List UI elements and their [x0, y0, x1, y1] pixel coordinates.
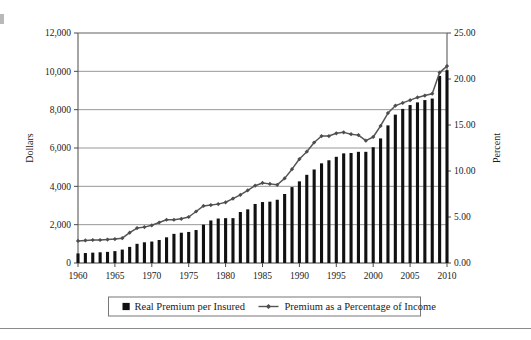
bar — [150, 242, 153, 263]
tick-label-left: 8,000 — [50, 105, 72, 115]
bar — [320, 163, 323, 263]
bar — [135, 244, 138, 263]
tick-label-left: 10,000 — [45, 67, 71, 77]
tick-label-x: 1970 — [142, 271, 161, 281]
bar — [261, 202, 264, 263]
bar — [202, 225, 205, 263]
bar — [445, 70, 448, 263]
bar — [239, 212, 242, 263]
bar — [342, 153, 345, 263]
bar — [364, 152, 367, 263]
bar — [91, 253, 94, 263]
tick-label-left: 12,000 — [45, 28, 71, 38]
bar — [372, 147, 375, 263]
bar — [113, 251, 116, 263]
bar — [187, 232, 190, 263]
bar — [357, 152, 360, 263]
bar — [283, 194, 286, 263]
bar — [394, 115, 397, 263]
tick-label-right: 25.00 — [454, 28, 476, 38]
tick-label-left: 4,000 — [50, 182, 72, 192]
tick-label-x: 1985 — [253, 271, 272, 281]
legend-marker-square — [123, 303, 130, 310]
bar — [76, 253, 79, 263]
tick-label-left: 0 — [66, 258, 71, 268]
bar — [172, 234, 175, 263]
bar — [335, 157, 338, 263]
bar — [305, 175, 308, 263]
bar — [254, 204, 257, 263]
bar — [121, 250, 124, 263]
bar — [106, 252, 109, 263]
bar — [327, 160, 330, 263]
axis-title-left: Dollars — [24, 133, 35, 163]
tick-label-x: 1995 — [327, 271, 346, 281]
tick-label-x: 2005 — [401, 271, 420, 281]
bar — [165, 237, 168, 263]
tick-label-right: 15.00 — [454, 120, 476, 130]
axis-title-right: Percent — [491, 133, 502, 163]
legend-label-bars: Real Premium per Insured — [135, 301, 246, 312]
bar — [379, 138, 382, 263]
bar — [143, 242, 146, 263]
tick-label-left: 2,000 — [50, 220, 72, 230]
bar — [84, 253, 87, 263]
page-edge-mark — [0, 14, 4, 24]
tick-label-x: 2010 — [438, 271, 457, 281]
bar — [431, 99, 434, 263]
bar — [224, 218, 227, 263]
tick-label-x: 1980 — [216, 271, 235, 281]
legend-label-line: Premium as a Percentage of Income — [285, 301, 437, 312]
bar — [409, 105, 412, 263]
dual-axis-chart: 02,0004,0006,0008,00010,00012,0000.005.0… — [0, 0, 531, 340]
tick-label-right: 0.00 — [454, 258, 471, 268]
bar — [290, 187, 293, 263]
bar — [423, 100, 426, 263]
bar — [313, 169, 316, 263]
tick-label-x: 1975 — [179, 271, 198, 281]
tick-label-x: 1990 — [290, 271, 309, 281]
tick-label-right: 10.00 — [454, 166, 476, 176]
bar — [217, 219, 220, 263]
tick-label-right: 20.00 — [454, 74, 476, 84]
page-horizontal-rule — [0, 328, 531, 329]
bar — [401, 109, 404, 263]
tick-label-x: 1960 — [69, 271, 88, 281]
bar — [180, 233, 183, 263]
tick-label-x: 2000 — [364, 271, 383, 281]
bar — [195, 230, 198, 263]
bar — [128, 247, 131, 263]
bar — [298, 181, 301, 263]
bar — [416, 102, 419, 263]
bar — [276, 200, 279, 263]
bar — [268, 202, 271, 263]
bar — [350, 153, 353, 263]
tick-label-left: 6,000 — [50, 143, 72, 153]
bar — [231, 218, 234, 263]
bar — [99, 252, 102, 263]
tick-label-right: 5.00 — [454, 212, 471, 222]
bar — [209, 220, 212, 263]
bar — [386, 125, 389, 263]
bar — [158, 240, 161, 263]
bar — [246, 209, 249, 263]
bar — [438, 76, 441, 263]
chart-figure: 02,0004,0006,0008,00010,00012,0000.005.0… — [0, 0, 531, 340]
tick-label-x: 1965 — [105, 271, 124, 281]
